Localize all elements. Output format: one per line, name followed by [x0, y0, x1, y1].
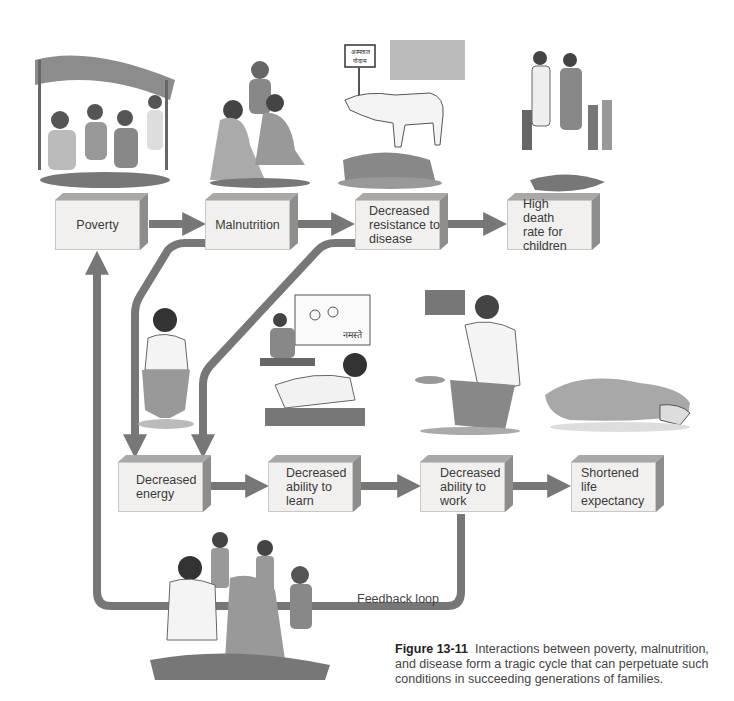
svg-text:गोदाम: गोदाम: [353, 57, 367, 64]
label-decreased-ability-learn: Decreased ability to learn: [268, 462, 353, 512]
feedback-loop-label: Feedback loop: [357, 592, 439, 606]
death-scene-illustration: [510, 50, 630, 200]
label-poverty: Poverty: [55, 200, 140, 250]
label-decreased-resistance: Decreased resistance to disease: [355, 200, 440, 250]
label-malnutrition: Malnutrition: [205, 200, 290, 250]
family-scene-illustration: [145, 530, 335, 685]
sign-text: अस्पताल: [351, 49, 371, 55]
learning-scene-illustration: नमस्ते: [255, 290, 375, 435]
life-expectancy-scene-illustration: [540, 365, 700, 435]
poverty-scene-illustration: [30, 40, 180, 190]
work-scene-illustration: [395, 285, 525, 435]
malnutrition-scene-illustration: [205, 55, 315, 190]
chalkboard-text: नमस्ते: [343, 329, 363, 340]
box-decreased-energy: Decreased energy: [118, 455, 203, 505]
energy-scene-illustration: [130, 300, 200, 430]
box-decreased-resistance: Decreased resistance to disease: [355, 193, 440, 243]
disease-scene-illustration: अस्पताल गोदाम: [335, 35, 470, 195]
figure-label: Figure 13-11: [395, 642, 468, 656]
box-decreased-ability-work: Decreased ability to work: [420, 455, 505, 505]
box-poverty: Poverty: [55, 193, 140, 243]
label-decreased-energy: Decreased energy: [118, 462, 203, 512]
box-high-death-rate: High death rate for children: [507, 193, 592, 243]
figure-caption: Figure 13-11 Interactions between povert…: [395, 642, 725, 687]
label-high-death-rate: High death rate for children: [507, 200, 592, 250]
diagram-stage: अस्पताल गोदाम नमस्ते: [0, 0, 734, 701]
box-malnutrition: Malnutrition: [205, 193, 290, 243]
label-decreased-ability-work: Decreased ability to work: [420, 462, 505, 512]
box-shortened-life: Shortened life expectancy: [571, 455, 656, 505]
box-decreased-ability-learn: Decreased ability to learn: [268, 455, 353, 505]
label-shortened-life: Shortened life expectancy: [571, 462, 656, 512]
